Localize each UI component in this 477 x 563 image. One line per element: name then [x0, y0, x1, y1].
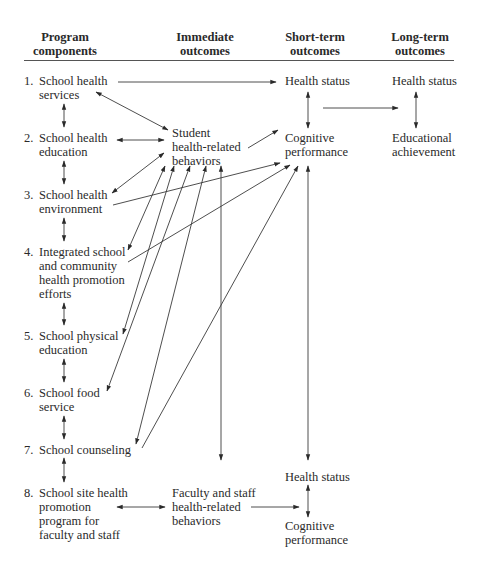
connector-arrows: [0, 0, 477, 563]
